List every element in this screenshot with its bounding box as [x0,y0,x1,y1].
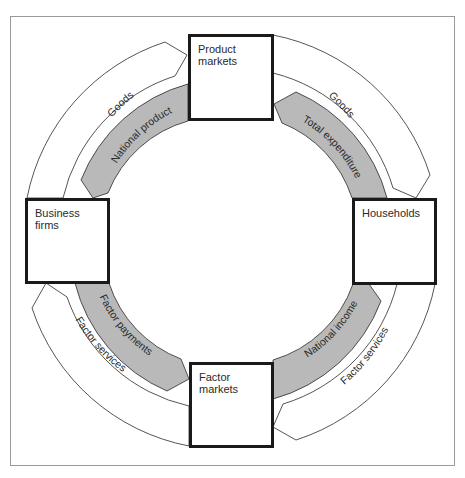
factor-markets-label: Factor markets [199,371,271,395]
business-firms-box: Business firms [25,198,110,284]
factor-markets-box: Factor markets [189,362,274,448]
households-box: Households [352,198,437,285]
business-firms-label: Business firms [35,207,107,231]
product-markets-label: Product markets [198,43,271,67]
product-markets-box: Product markets [188,34,274,121]
households-label: Households [362,207,434,219]
